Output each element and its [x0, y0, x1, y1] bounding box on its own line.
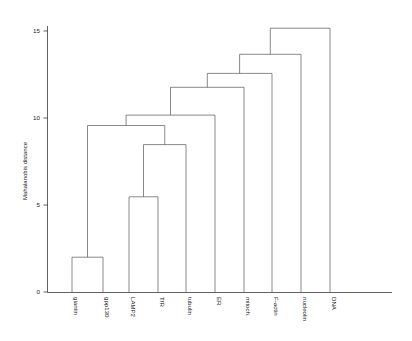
y-tick-label-15: 15	[33, 27, 40, 34]
link-m1	[72, 257, 103, 292]
leaf-label-lamp2: LAMP2	[130, 297, 137, 318]
dendrogram-links	[72, 28, 330, 292]
leaf-label-giantin: giantin	[73, 297, 80, 315]
leaf-label-tfr: TfR	[159, 297, 166, 307]
y-tick-group	[44, 31, 48, 292]
y-tick-labels: 15 10 5 0	[33, 27, 40, 295]
leaf-label-dna: DNA	[331, 297, 338, 311]
leaf-label-nucleolin: nucleolin	[302, 297, 309, 321]
dendrogram-chart: 15 10 5 0 Mahalanobis distance	[0, 0, 412, 341]
axes-group	[48, 26, 393, 293]
link-m9	[270, 28, 330, 292]
leaf-label-er: ER	[216, 297, 223, 306]
y-tick-label-5: 5	[37, 201, 41, 208]
link-m4	[88, 126, 165, 258]
link-m3	[144, 145, 187, 293]
leaf-label-mitoch: mitoch.	[245, 297, 252, 317]
leaf-labels: giantin gpp130 LAMP2 TfR tubulin ER mito…	[73, 297, 338, 321]
leaf-label-gpp130: gpp130	[104, 297, 111, 318]
y-tick-label-10: 10	[33, 114, 40, 121]
link-m6	[171, 87, 245, 292]
leaf-label-tubulin: tubulin	[187, 297, 194, 315]
link-m8	[240, 54, 301, 292]
link-m2	[129, 197, 158, 293]
link-m7	[207, 73, 272, 292]
y-tick-label-0: 0	[37, 288, 41, 295]
y-axis-title: Mahalanobis distance	[22, 141, 28, 200]
link-m5	[126, 115, 215, 292]
leaf-label-f-actin: F-actin	[273, 297, 280, 316]
